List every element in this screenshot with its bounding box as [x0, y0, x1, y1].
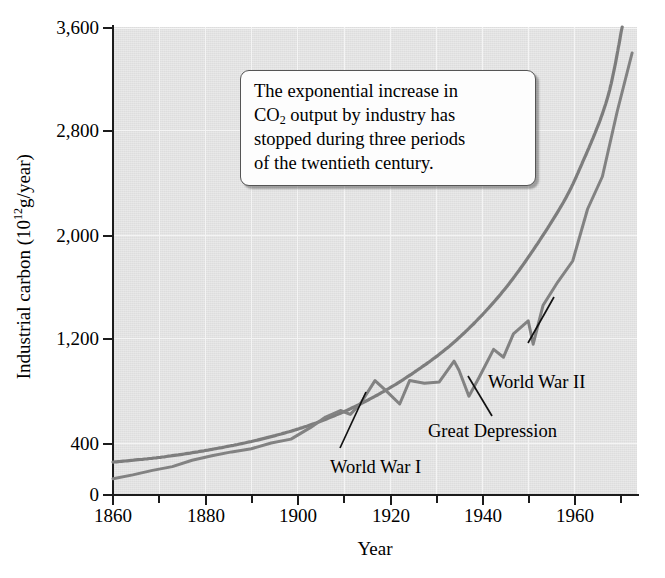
callout-co2-text: CO [254, 105, 280, 125]
annotation-world-war-ii: World War II [488, 372, 585, 393]
callout-line-2: CO2 output by industry has [254, 104, 522, 128]
callout-box: The exponential increase in CO2 output b… [240, 70, 536, 186]
chart-figure: 3,600 2,800 2,000 1,200 400 0 1860 1880 … [0, 0, 665, 578]
callout-line-4: of the twentieth century. [254, 152, 522, 176]
annotation-great-depression: Great Depression [428, 421, 557, 442]
callout-line-2-tail: output by industry has [286, 105, 456, 125]
callout-line-1: The exponential increase in [254, 80, 522, 104]
annotation-world-war-i: World War I [330, 457, 421, 478]
callout-line-3: stopped during three periods [254, 128, 522, 152]
leader-line-world-war-ii [528, 297, 554, 343]
leader-line-world-war-i [340, 392, 366, 448]
